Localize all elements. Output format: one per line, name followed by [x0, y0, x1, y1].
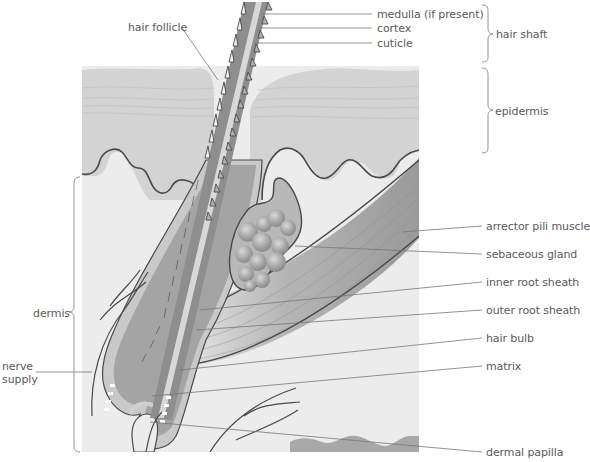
label-hair-shaft: hair shaft [496, 28, 547, 41]
label-matrix: matrix [486, 360, 521, 373]
label-medulla: medulla (if present) [377, 8, 484, 21]
label-dermis: dermis [33, 307, 70, 320]
label-epidermis: epidermis [495, 105, 549, 118]
label-cortex: cortex [377, 22, 411, 35]
dermal-papilla-shape [132, 414, 158, 452]
label-nerve-supply-line2: supply [2, 373, 38, 386]
label-hair-bulb: hair bulb [486, 332, 534, 345]
label-hair-follicle: hair follicle [128, 21, 187, 34]
label-cuticle: cuticle [377, 37, 413, 50]
label-arrector-pili-muscle: arrector pili muscle [486, 220, 590, 233]
label-sebaceous-gland: sebaceous gland [486, 248, 577, 261]
label-nerve-supply-line1: nerve [2, 360, 33, 373]
label-inner-root-sheath: inner root sheath [486, 276, 579, 289]
label-dermal-papilla: dermal papilla [486, 446, 563, 459]
label-outer-root-sheath: outer root sheath [486, 304, 580, 317]
